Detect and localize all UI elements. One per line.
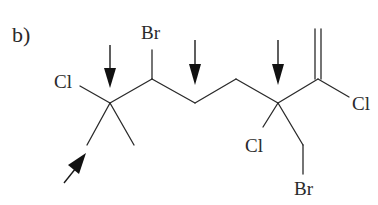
chemical-structure-diagram: b) Cl Br Cl Cl Br [0,0,378,205]
bond-c4-c5 [236,79,278,103]
arrow-down-3 [272,40,284,85]
bond-c1-c2 [110,79,152,103]
arrow-down-2 [189,40,201,85]
bond-c5-ch2 [278,103,303,145]
atom-label-cl-left: Cl [54,71,72,92]
bond-cl-c1 [80,86,110,103]
arrow-up-right-icon [68,153,86,174]
atom-label-br-top: Br [141,22,161,43]
bond-skeleton [80,29,349,174]
panel-label: b) [12,22,30,47]
bond-c5-c6 [278,79,318,103]
bond-c1-methyl-a [87,103,110,145]
bond-c5-cl [263,103,278,127]
arrow-down-icon [272,64,284,85]
bond-c2-c3 [152,79,195,103]
atom-label-cl-lower: Cl [245,135,263,156]
bond-c1-methyl-b [110,103,134,145]
arrow-shaft [64,168,76,183]
atom-label-cl-right: Cl [352,93,370,114]
arrow-down-icon [189,64,201,85]
bond-c6-cl [318,79,349,97]
bond-c3-c4 [195,79,236,103]
atom-label-br-bottom: Br [294,178,314,199]
arrow-down-icon [104,68,116,88]
arrow-diagonal-4 [64,153,86,183]
arrow-down-1 [104,45,116,88]
